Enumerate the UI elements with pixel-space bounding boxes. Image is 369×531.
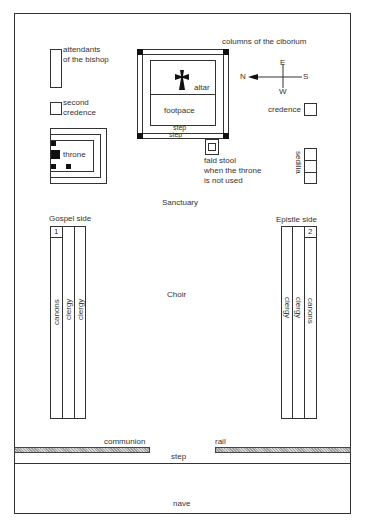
gospel-number: 1 <box>54 227 58 237</box>
fald-stool-label-1: fald stool <box>204 156 236 166</box>
altar-footpace-divider <box>150 94 216 95</box>
ciborium-column-sw <box>137 133 143 139</box>
compass-arrow-icon <box>240 56 310 96</box>
epistle-col-clergy-2: clergy <box>294 297 303 318</box>
gospel-stall-clergy-2 <box>74 226 86 419</box>
gospel-col-clergy-1: clergy <box>64 299 73 320</box>
fald-stool-label-3: is not used <box>204 176 243 186</box>
compass-south: S <box>303 72 308 82</box>
sedilia-seat-3 <box>304 172 317 184</box>
epistle-side-heading: Epistle side <box>276 215 317 225</box>
communion-rail-right <box>215 447 351 453</box>
footpace-label: footpace <box>164 106 195 116</box>
step-lower-label: step <box>169 131 182 138</box>
attendants-bench <box>50 49 62 88</box>
nave-label: nave <box>173 499 190 509</box>
credence-label: credence <box>268 105 301 115</box>
step-line <box>14 463 351 464</box>
fald-stool-label-2: when the throne <box>204 166 261 176</box>
compass-north: N <box>240 72 246 82</box>
compass-west: W <box>279 87 287 97</box>
communion-label: communion <box>104 437 145 447</box>
rail-label: rail <box>215 437 226 447</box>
ciborium-columns-label: columns of the ciborium <box>222 37 306 47</box>
throne-block-1 <box>51 141 56 146</box>
credence-table <box>304 103 317 116</box>
choir-label: Choir <box>167 290 186 300</box>
gospel-side-heading: Gospel side <box>49 214 91 224</box>
compass: N S E W <box>240 56 310 96</box>
throne-block-4 <box>66 164 71 169</box>
attendants-label-2: of the bishop <box>63 55 109 65</box>
sanctuary-label: Sanctuary <box>162 198 198 208</box>
step-label: step <box>171 452 186 462</box>
throne-label: throne <box>63 150 86 160</box>
ciborium-column-nw <box>137 49 143 55</box>
gospel-col-clergy-2: clergy <box>76 299 85 320</box>
second-credence-label-1: second <box>63 98 89 108</box>
attendants-label-1: attendants <box>63 45 100 55</box>
step-upper-label: step <box>173 124 186 131</box>
fald-stool-inner <box>208 143 216 151</box>
throne-seat-block <box>51 150 60 159</box>
ciborium-column-se <box>223 133 229 139</box>
compass-east: E <box>280 58 285 68</box>
cross-icon <box>173 70 191 90</box>
second-credence-table <box>50 102 62 115</box>
altar-label: altar <box>194 83 210 93</box>
epistle-col-canons: canons <box>306 298 315 324</box>
communion-rail-left <box>14 447 150 453</box>
epistle-number: 2 <box>308 227 312 237</box>
gospel-col-canons: canons <box>52 299 61 325</box>
throne-block-3 <box>51 164 56 169</box>
sedilia-label: sedilia <box>294 151 303 174</box>
second-credence-label-2: credence <box>63 108 96 118</box>
epistle-col-clergy-1: clergy <box>283 297 292 318</box>
ciborium-column-ne <box>223 49 229 55</box>
